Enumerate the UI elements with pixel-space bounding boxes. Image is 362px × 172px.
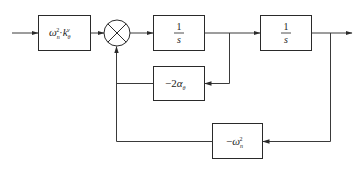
wire-damping-feedback-in	[205, 33, 230, 84]
block-diagram: ωn2·kθv 1 s 1 s −2αθ −ωn2	[0, 0, 362, 172]
summing-junction	[104, 20, 130, 46]
gain-block: ωn2·kθv	[39, 16, 91, 51]
svg-text:−2αθ: −2αθ	[165, 77, 186, 91]
integrator-block-1: 1 s	[154, 16, 205, 51]
integrator2-numerator: 1	[284, 21, 289, 32]
integrator1-numerator: 1	[177, 21, 182, 32]
integrator1-denominator: s	[177, 34, 181, 45]
svg-text:ωn2·kθv: ωn2·kθv	[49, 26, 71, 40]
damping-feedback-block: −2αθ	[154, 67, 205, 101]
integrator2-denominator: s	[284, 34, 288, 45]
integrator-block-2: 1 s	[261, 16, 312, 51]
stiffness-feedback-block: −ωn2	[213, 124, 263, 159]
